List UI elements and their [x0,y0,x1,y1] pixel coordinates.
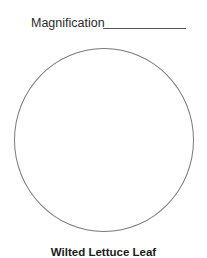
drawing-caption: Wilted Lettuce Leaf [0,246,207,258]
magnification-blank-line[interactable] [103,28,186,29]
microscope-field-circle [14,48,194,232]
magnification-label: Magnification [31,16,105,30]
